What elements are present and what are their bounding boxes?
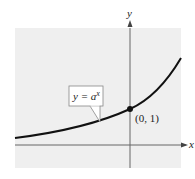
y-axis-arrow-icon (128, 20, 133, 27)
point-0-1 (127, 106, 133, 112)
y-axis-label: y (126, 7, 132, 19)
x-axis-arrow-icon (181, 143, 188, 148)
point-label: (0, 1) (135, 112, 159, 125)
curve-label: y = ax (72, 89, 100, 102)
x-axis-label: x (188, 138, 194, 150)
exponential-graph: x y (0, 1) y = ax (0, 0, 195, 179)
